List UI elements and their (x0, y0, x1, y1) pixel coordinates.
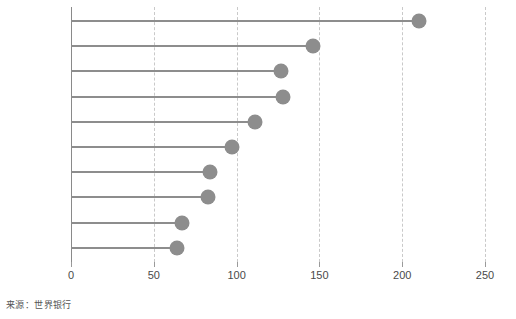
x-tick-mark (319, 262, 320, 267)
data-point (411, 14, 426, 29)
lollipop-stem (71, 196, 208, 198)
x-tick-mark (71, 262, 72, 267)
x-tick-mark (237, 262, 238, 267)
lollipop-stem (71, 121, 255, 123)
x-tick-label: 100 (227, 269, 245, 281)
plot-area: 巴西俄罗斯日本墨西哥埃塞俄比亚越南德国土耳其法国意大利 050100150200… (0, 0, 516, 286)
x-tick-mark (485, 262, 486, 267)
data-point (305, 39, 320, 54)
x-tick-label: 250 (476, 269, 494, 281)
data-point (275, 89, 290, 104)
lollipop-stem (71, 247, 177, 249)
source-note: 来源：世界银行 (6, 298, 72, 311)
lollipop-chart: 巴西俄罗斯日本墨西哥埃塞俄比亚越南德国土耳其法国意大利 050100150200… (0, 0, 516, 319)
x-tick-label: 50 (148, 269, 160, 281)
data-point (224, 140, 239, 155)
data-point (274, 64, 289, 79)
lollipop-stem (71, 45, 313, 47)
data-point (201, 190, 216, 205)
gridline (402, 7, 403, 262)
data-point (174, 215, 189, 230)
lollipop-stem (71, 222, 182, 224)
data-point (247, 114, 262, 129)
data-point (203, 165, 218, 180)
x-tick-label: 0 (68, 269, 74, 281)
data-point (169, 240, 184, 255)
x-tick-mark (154, 262, 155, 267)
lollipop-stem (71, 70, 281, 72)
x-tick-label: 150 (310, 269, 328, 281)
x-tick-mark (402, 262, 403, 267)
lollipop-stem (71, 96, 283, 98)
lollipop-stem (71, 146, 232, 148)
x-tick-label: 200 (393, 269, 411, 281)
category-axis-labels: 巴西俄罗斯日本墨西哥埃塞俄比亚越南德国土耳其法国意大利 (0, 0, 71, 286)
gridline (485, 7, 486, 262)
lollipop-stem (71, 20, 419, 22)
lollipop-stem (71, 171, 210, 173)
